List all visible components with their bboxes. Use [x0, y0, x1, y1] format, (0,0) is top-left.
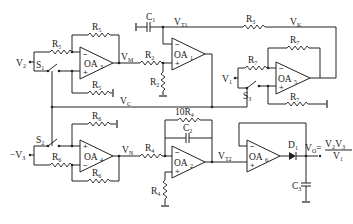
vt2-label: VT2	[218, 151, 232, 162]
c3-label: C3	[292, 181, 301, 192]
op-amp-oa1: − + OA 1	[172, 38, 205, 70]
r3-label: R3	[246, 14, 255, 25]
svg-text:OA: OA	[84, 59, 98, 69]
neg-v3-label: −V3	[10, 150, 25, 161]
r5-gnd-label: R5	[92, 80, 101, 91]
op-amp-oa2: − + OA 2	[172, 146, 205, 178]
op-amp-oa5: − + OA 5	[276, 62, 310, 94]
vc-label: VC	[120, 96, 131, 107]
resistor-r2	[140, 61, 162, 65]
svg-text:VO=: VO=	[305, 143, 322, 154]
vk-label: VK	[290, 17, 302, 28]
s1-label: S1	[36, 60, 44, 71]
svg-text:V₂V₃: V₂V₃	[325, 139, 345, 149]
svg-text:OA: OA	[249, 152, 263, 162]
r6-top-label: R6	[92, 111, 101, 122]
svg-text:−: −	[83, 161, 88, 170]
r6-fb-label: R6	[92, 168, 101, 179]
svg-text:+: +	[175, 167, 180, 176]
svg-text:−: −	[175, 40, 180, 49]
svg-text:−: −	[175, 148, 180, 157]
r4-label: R4	[145, 143, 154, 154]
circuit-diagram: − + OA 3 V2 R5 R5 S1 R5 VM R2 R2 −	[0, 0, 353, 224]
vn-label: VN	[122, 145, 134, 156]
svg-text:5: 5	[294, 79, 297, 85]
schematic-svg: − + OA 3 V2 R5 R5 S1 R5 VM R2 R2 −	[0, 0, 353, 224]
svg-text:3: 3	[100, 64, 103, 70]
r7-in-label: R7	[248, 55, 257, 66]
switch-s1	[48, 64, 57, 71]
svg-text:OA: OA	[174, 158, 188, 168]
resistor-r5-feedback	[88, 33, 110, 37]
svg-text:OA: OA	[84, 152, 98, 162]
r7-top-label: R7	[290, 35, 299, 46]
r5-top-label: R5	[92, 22, 101, 33]
r7-gnd-label: R7	[290, 92, 299, 103]
s2-label: S2	[36, 135, 44, 146]
op-amp-oa6: − + OA 6	[247, 140, 280, 172]
svg-text:4: 4	[100, 157, 103, 163]
output-label: VO= V₂V₃ V₁	[305, 139, 352, 161]
c2-label: C2	[183, 123, 192, 134]
c1-label: C1	[146, 12, 155, 23]
svg-text:+: +	[250, 161, 255, 170]
svg-text:1: 1	[190, 55, 193, 61]
svg-text:−: −	[279, 64, 284, 73]
switch-s3	[247, 81, 256, 88]
svg-text:+: +	[83, 68, 88, 77]
r4-gnd-label: R4	[151, 186, 160, 197]
resistor-r4	[140, 154, 162, 158]
diode-d1	[289, 152, 296, 160]
d1-label: D1	[288, 140, 298, 151]
r2-label: R2	[145, 50, 154, 61]
r6-in-label: R6	[52, 152, 61, 163]
r2-gnd-label: R2	[150, 77, 159, 88]
svg-text:−: −	[83, 50, 88, 59]
svg-text:2: 2	[190, 163, 193, 169]
svg-text:6: 6	[265, 157, 268, 163]
v1-label: V1	[222, 74, 232, 85]
svg-text:OA: OA	[278, 74, 292, 84]
r5-in-label: R5	[52, 39, 61, 50]
r4-fb-label: 10R4	[175, 107, 194, 118]
resistor-r3	[243, 25, 265, 29]
svg-text:OA: OA	[174, 50, 188, 60]
vm-label: VM	[121, 52, 134, 63]
svg-text:+: +	[175, 59, 180, 68]
op-amp-oa3: − + OA 3	[80, 47, 113, 79]
svg-text:+: +	[279, 83, 284, 92]
resistor-r5-in	[50, 50, 72, 54]
svg-text:+: +	[83, 142, 88, 151]
v2-label: V2	[16, 58, 26, 69]
svg-text:V₁: V₁	[333, 151, 343, 161]
svg-text:−: −	[250, 142, 255, 151]
vt1-label: VT1	[174, 17, 188, 28]
